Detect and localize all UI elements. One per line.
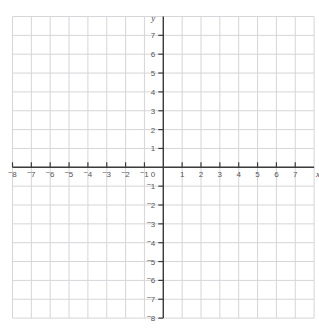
x-tick-label: 7 (293, 170, 298, 179)
axes-group (13, 17, 315, 319)
y-tick-label: –8 (147, 312, 156, 324)
x-tick-label: –8 (8, 168, 17, 180)
x-tick-label: –1 (140, 168, 149, 180)
x-tick-label: 2 (199, 170, 204, 179)
x-tick-label: 5 (255, 170, 260, 179)
y-tick-label: 2 (151, 126, 156, 135)
y-tick-label: 7 (151, 31, 156, 40)
origin-label: 0 (151, 170, 156, 179)
y-tick-label: –6 (147, 274, 156, 286)
coordinate-grid: –8–7–6–5–4–3–2–112345677654321–1–2–3–4–5… (0, 0, 319, 333)
x-tick-label: 1 (180, 170, 185, 179)
y-tick-label: –3 (147, 217, 156, 229)
x-tick-label: –4 (84, 168, 93, 180)
x-tick-label: –6 (46, 168, 55, 180)
y-tick-label: –4 (147, 236, 156, 248)
coordinate-plane-figure: –8–7–6–5–4–3–2–112345677654321–1–2–3–4–5… (0, 0, 319, 333)
y-tick-label: 3 (151, 107, 156, 116)
y-tick-label: –5 (147, 255, 156, 267)
y-tick-label: 6 (151, 50, 156, 59)
axis-letter-labels-group: xy (150, 13, 319, 180)
x-tick-label: 4 (236, 170, 241, 179)
y-tick-label: –7 (147, 293, 156, 305)
y-tick-label: –2 (147, 199, 156, 211)
y-tick-label: 5 (151, 69, 156, 78)
x-tick-label: –2 (121, 168, 130, 180)
x-tick-label: –7 (27, 168, 36, 180)
y-tick-label: –1 (147, 180, 156, 192)
y-axis-label: y (150, 13, 155, 23)
x-tick-label: –3 (103, 168, 112, 180)
y-tick-label: 1 (151, 144, 156, 153)
x-axis-label: x (315, 169, 319, 179)
y-tick-label: 4 (151, 88, 156, 97)
x-tick-label: 6 (274, 170, 279, 179)
x-tick-label: –5 (65, 168, 74, 180)
x-tick-label: 3 (218, 170, 223, 179)
tick-labels-group: –8–7–6–5–4–3–2–112345677654321–1–2–3–4–5… (8, 31, 298, 323)
